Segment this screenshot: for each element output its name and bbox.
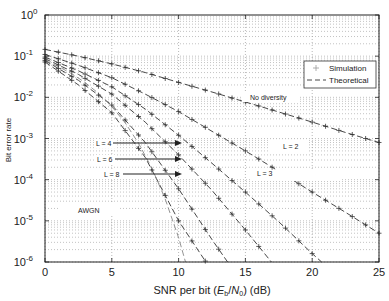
grid [45,15,379,262]
y-tick-label: 10-1 [14,48,34,62]
label-l3: L = 3 [257,170,273,177]
axes-frame [45,15,379,262]
svg-text:L = 4: L = 4 [96,140,112,147]
legend: Simulation Theoretical [304,61,376,88]
y-tick-label: 10-6 [14,254,34,268]
legend-theoretical: Theoretical [329,76,369,85]
arrow-l6: L = 6 [95,155,182,164]
y-tick-label: 10-5 [14,213,34,227]
legend-simulation: Simulation [329,64,366,73]
x-tick-label: 25 [373,266,385,278]
y-tick-label: 100 [21,7,38,21]
label-no-diversity: No diversity [250,94,287,102]
x-tick-label: 10 [172,266,184,278]
label-awgn: AWGN [78,207,100,214]
curve-l8 [45,62,206,262]
y-tick-label: 10-4 [14,172,34,186]
x-tick-label: 20 [306,266,318,278]
y-tick-label: 10-2 [14,89,34,103]
label-l2: L = 2 [283,143,299,150]
x-tick-label: 5 [109,266,115,278]
svg-text:L = 8: L = 8 [104,171,120,178]
ber-chart: No diversity L = 2 L = 3 AWGN L = 4 L = … [0,0,389,301]
x-axis-label: SNR per bit (Eb/N0) (dB) [153,284,270,297]
y-tick-label: 10-3 [14,131,34,145]
svg-text:L = 6: L = 6 [97,156,113,163]
x-tick-label: 0 [42,266,48,278]
y-axis-label: Bit error rate [4,117,13,162]
arrow-l8: L = 8 [102,170,182,179]
curve-l4 [45,59,271,262]
x-tick-label: 15 [239,266,251,278]
